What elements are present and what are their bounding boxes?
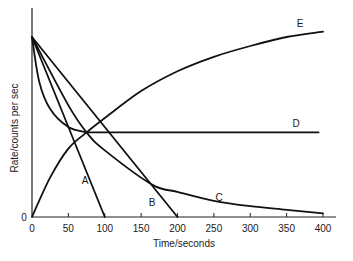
chart-canvas: 050100150200250300350400 ABCDE Rate/coun… — [0, 0, 353, 261]
x-tick-label: 350 — [278, 223, 295, 234]
curve-labels: ABCDE — [82, 18, 304, 208]
curve-label-c: C — [215, 192, 222, 203]
x-tick-label: 100 — [96, 223, 113, 234]
x-tick-label: 300 — [242, 223, 259, 234]
curve-label-a: A — [82, 175, 89, 186]
curve-e — [32, 32, 323, 217]
x-tick-label: 150 — [133, 223, 150, 234]
curves — [32, 32, 323, 217]
axes: 050100150200250300350400 — [29, 8, 336, 234]
curve-label-e: E — [297, 18, 304, 29]
decay-rate-chart: 050100150200250300350400 ABCDE Rate/coun… — [0, 0, 353, 261]
y-axis-label: Rate/counts per sec — [9, 84, 20, 173]
curve-b — [32, 37, 178, 217]
x-axis-label: Time/seconds — [153, 238, 215, 249]
x-tick-label: 200 — [169, 223, 186, 234]
curve-d — [32, 37, 319, 132]
x-tick-label: 250 — [206, 223, 223, 234]
curve-label-d: D — [292, 118, 299, 129]
curve-c — [32, 37, 323, 213]
x-tick-label: 50 — [63, 223, 75, 234]
x-tick-label: 0 — [29, 223, 35, 234]
x-tick-label: 400 — [315, 223, 332, 234]
curve-label-b: B — [149, 197, 156, 208]
y-zero-tick-label: 0 — [21, 212, 27, 223]
